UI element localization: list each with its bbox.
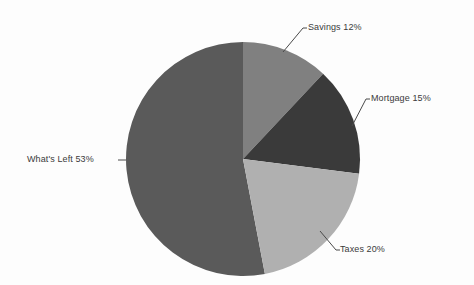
pie-label-savings: Savings 12% <box>308 22 362 33</box>
leader-line-savings <box>283 28 307 52</box>
pie-label-whats-left: What's Left 53% <box>27 154 94 165</box>
leader-line-mortgage <box>352 99 370 126</box>
pie-chart-graphic <box>0 0 474 285</box>
pie-label-mortgage: Mortgage 15% <box>371 93 431 104</box>
pie-chart: Savings 12% Mortgage 15% Taxes 20% What'… <box>0 0 474 285</box>
pie-label-taxes: Taxes 20% <box>340 244 385 255</box>
